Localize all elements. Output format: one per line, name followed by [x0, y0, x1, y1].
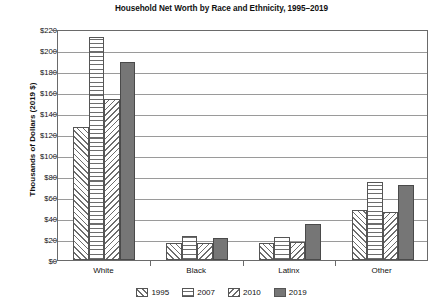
- x-axis-tick-label-other: Other: [335, 266, 428, 275]
- bar-group-white: [58, 31, 151, 260]
- plot-area: [57, 30, 428, 261]
- y-axis-tick-mark: [52, 261, 57, 262]
- legend-label-2007: 2007: [197, 288, 215, 297]
- legend-item-2007: 2007: [182, 288, 215, 297]
- chart-title: Household Net Worth by Race and Ethnicit…: [0, 4, 443, 13]
- legend-swatch-2007: [182, 288, 194, 297]
- bar-group-black: [151, 31, 244, 260]
- bar-other-2007: [367, 182, 383, 260]
- legend-swatch-2019: [274, 288, 286, 297]
- legend-item-2010: 2010: [228, 288, 261, 297]
- bar-latinx-2010: [290, 242, 306, 260]
- bar-series-group: [58, 31, 427, 260]
- bar-latinx-2007: [274, 237, 290, 260]
- y-axis-tick-label: $220: [7, 26, 57, 35]
- x-axis-separator: [335, 261, 336, 266]
- bar-latinx-1995: [259, 243, 275, 260]
- y-axis-tick-label: $0: [7, 257, 57, 266]
- legend-swatch-2010: [228, 288, 240, 297]
- legend-label-2019: 2019: [289, 288, 307, 297]
- y-axis-tick-label: $80: [7, 173, 57, 182]
- y-axis-tick-label: $60: [7, 194, 57, 203]
- y-axis-tick-label: $180: [7, 68, 57, 77]
- y-axis-tick-label: $20: [7, 236, 57, 245]
- legend-swatch-1995: [136, 288, 148, 297]
- bar-latinx-2019: [305, 224, 321, 260]
- bar-black-2019: [213, 238, 229, 260]
- bar-group-other: [336, 31, 429, 260]
- legend-label-1995: 1995: [151, 288, 169, 297]
- y-axis-tick-label: $160: [7, 89, 57, 98]
- y-axis-tick-label: $200: [7, 47, 57, 56]
- x-axis-tick-label-latinx: Latinx: [243, 266, 336, 275]
- legend-item-2019: 2019: [274, 288, 307, 297]
- legend-label-2010: 2010: [243, 288, 261, 297]
- y-axis-tick-label: $100: [7, 152, 57, 161]
- chart-container: Household Net Worth by Race and Ethnicit…: [0, 0, 443, 306]
- y-axis-tick-label: $140: [7, 110, 57, 119]
- x-axis-separator: [150, 261, 151, 266]
- legend-item-1995: 1995: [136, 288, 169, 297]
- bar-black-1995: [166, 243, 182, 260]
- bar-other-1995: [352, 210, 368, 260]
- chart-legend: 1995200720102019: [0, 288, 443, 297]
- bar-other-2010: [383, 212, 399, 260]
- bar-white-1995: [73, 127, 89, 260]
- x-axis-tick-label-black: Black: [150, 266, 243, 275]
- y-axis-tick-label: $40: [7, 215, 57, 224]
- bar-black-2007: [182, 236, 198, 260]
- bar-group-latinx: [244, 31, 337, 260]
- bar-white-2007: [89, 37, 105, 260]
- bar-other-2019: [398, 185, 414, 260]
- bar-white-2010: [104, 99, 120, 260]
- x-axis-tick-label-white: White: [57, 266, 150, 275]
- bar-white-2019: [120, 62, 136, 260]
- x-axis-separator: [243, 261, 244, 266]
- bar-black-2010: [197, 243, 213, 260]
- y-axis-tick-label: $120: [7, 131, 57, 140]
